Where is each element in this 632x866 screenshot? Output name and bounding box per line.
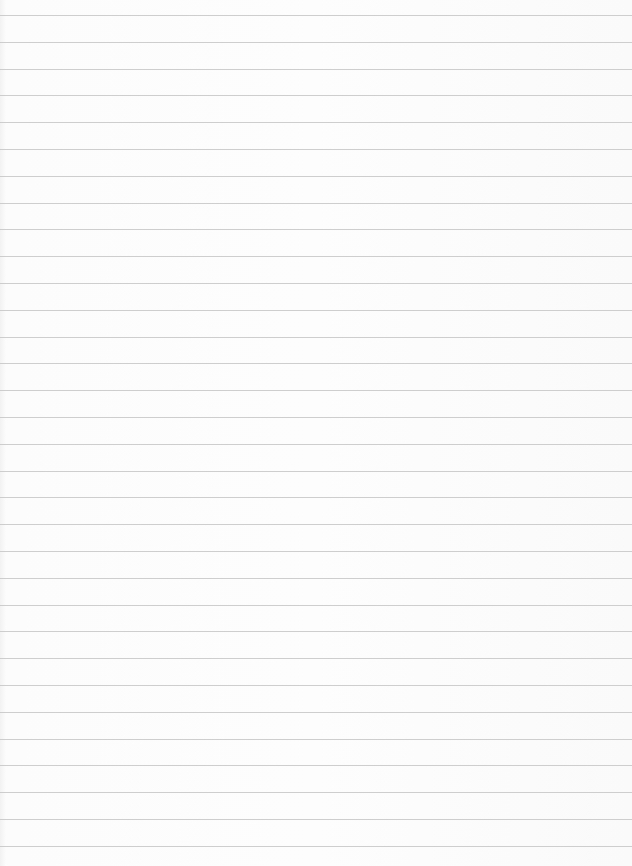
ruled-line	[0, 444, 632, 445]
ruled-line	[0, 819, 632, 820]
ruled-line	[0, 95, 632, 96]
ruled-line	[0, 256, 632, 257]
ruled-line	[0, 846, 632, 847]
ruled-line	[0, 578, 632, 579]
ruled-line	[0, 712, 632, 713]
ruled-line	[0, 176, 632, 177]
ruled-line	[0, 390, 632, 391]
ruled-line	[0, 69, 632, 70]
ruled-line	[0, 122, 632, 123]
ruled-line	[0, 42, 632, 43]
ruled-line	[0, 631, 632, 632]
ruled-line	[0, 605, 632, 606]
lined-paper-sheet	[0, 0, 632, 866]
ruled-line	[0, 310, 632, 311]
ruled-line	[0, 765, 632, 766]
ruled-line	[0, 658, 632, 659]
ruled-line	[0, 363, 632, 364]
ruled-line	[0, 283, 632, 284]
ruled-line	[0, 417, 632, 418]
ruled-line	[0, 685, 632, 686]
ruled-line	[0, 551, 632, 552]
ruled-line	[0, 15, 632, 16]
ruled-line	[0, 739, 632, 740]
ruled-line	[0, 471, 632, 472]
ruled-line	[0, 203, 632, 204]
ruled-line	[0, 524, 632, 525]
ruled-line	[0, 497, 632, 498]
ruled-line	[0, 792, 632, 793]
ruled-line	[0, 229, 632, 230]
ruled-line	[0, 149, 632, 150]
ruled-line	[0, 337, 632, 338]
